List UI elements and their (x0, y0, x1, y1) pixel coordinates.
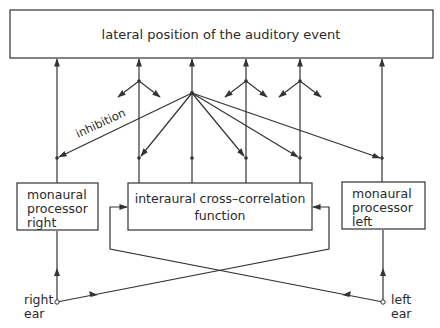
left-ear-line1: left (391, 292, 411, 307)
left-ear-node (381, 300, 385, 304)
left-ear-up-arrow (380, 268, 386, 276)
right-ear-up-arrow (54, 268, 60, 276)
monaural-right-line3: right (27, 215, 56, 230)
monaural-left-line3: left (352, 214, 372, 229)
diagram-svg: lateral position of the auditory event (0, 0, 440, 328)
cross-correlation-line1: interaural cross–correlation (135, 191, 306, 206)
cross-correlation-line2: function (194, 208, 245, 223)
monaural-right-line1: monaural (27, 187, 87, 202)
right-ear-line1: right (24, 292, 53, 307)
right-ear-node (55, 300, 59, 304)
node-dots (55, 156, 384, 160)
right-ear-line2: ear (24, 306, 45, 321)
monaural-left-line2: processor (352, 200, 414, 215)
inhibition-label: inhibition (73, 105, 127, 140)
lateral-position-label: lateral position of the auditory event (102, 27, 341, 42)
monaural-right-line2: processor (27, 201, 89, 216)
left-ear-line2: ear (391, 306, 412, 321)
binaural-model-diagram: lateral position of the auditory event (0, 0, 440, 328)
monaural-left-line1: monaural (352, 186, 412, 201)
